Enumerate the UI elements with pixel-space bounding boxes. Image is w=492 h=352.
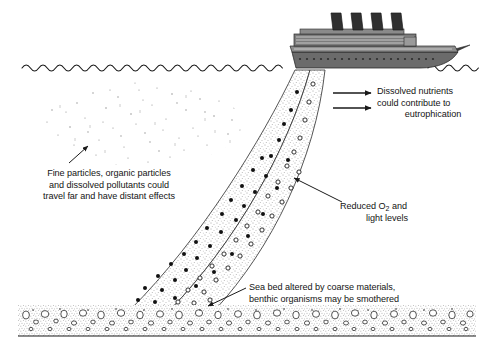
funnel-1 — [331, 13, 343, 30]
label-reduced-oxygen-line1: Reduced O2 and — [340, 201, 460, 213]
label-sea-bed-line2: benthic organisms may be smothered — [249, 294, 449, 306]
annotation-arrows — [333, 93, 371, 108]
label-sea-bed: Sea bed altered by coarse materials, ben… — [249, 282, 449, 305]
gravel-sea-bed — [18, 305, 476, 336]
label-dissolved-nutrients-line3: eutrophication — [377, 109, 489, 121]
label-reduced-oxygen-prefix: Reduced O — [340, 201, 386, 211]
label-reduced-oxygen-subscript: 2 — [386, 205, 390, 212]
label-fine-particles-line1: Fine particles, organic particles — [16, 168, 202, 180]
arrow-fine-particles — [69, 146, 88, 163]
ship-bridge — [404, 37, 416, 46]
label-fine-particles: Fine particles, organic particles and di… — [16, 168, 202, 203]
label-reduced-oxygen-line2: light levels — [340, 213, 460, 225]
label-reduced-oxygen-suffix: and — [389, 201, 407, 211]
label-dissolved-nutrients: Dissolved nutrients could contribute to … — [377, 86, 489, 121]
label-reduced-oxygen: Reduced O2 and light levels — [340, 201, 460, 224]
ship-upper-deck — [300, 29, 404, 34]
label-dissolved-nutrients-line2: could contribute to — [377, 98, 489, 110]
label-fine-particles-line2: and dissolved pollutants could — [16, 180, 202, 192]
funnel-4 — [391, 13, 403, 30]
arrow-reduced-oxygen — [294, 178, 342, 202]
funnel-2 — [351, 13, 363, 30]
ship-funnels — [331, 13, 403, 30]
label-dissolved-nutrients-line1: Dissolved nutrients — [377, 86, 489, 98]
label-fine-particles-line3: travel far and have distant effects — [16, 191, 202, 203]
funnel-3 — [371, 13, 383, 30]
fine-particle-cloud — [46, 81, 240, 165]
label-sea-bed-line1: Sea bed altered by coarse materials, — [249, 282, 449, 294]
ocean-liner — [290, 13, 470, 68]
diagram-canvas: Fine particles, organic particles and di… — [0, 0, 492, 352]
